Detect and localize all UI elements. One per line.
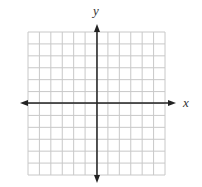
arrow-right-icon [168,100,176,106]
coordinate-plane: x y [0,0,202,187]
y-axis-label: y [91,3,99,18]
arrow-down-icon [94,175,100,183]
arrow-up-icon [94,24,100,32]
arrow-left-icon [20,100,28,106]
x-axis-label: x [182,95,189,110]
axes [20,24,176,183]
